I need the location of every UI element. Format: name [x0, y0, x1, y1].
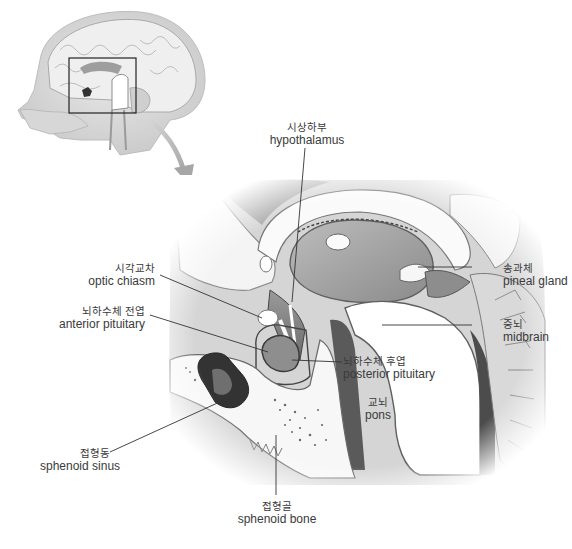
- inset-head: [18, 11, 205, 155]
- label-anterior-pituitary: 뇌하수체 전엽 anterior pituitary: [40, 305, 145, 331]
- label-pons-en: pons: [353, 409, 403, 422]
- label-sphenoid-bone-en: sphenoid bone: [236, 513, 318, 526]
- label-hypothalamus-en: hypothalamus: [264, 134, 350, 147]
- label-sphenoid-sinus: 접형동 sphenoid sinus: [40, 447, 110, 473]
- label-pons: 교뇌 pons: [353, 396, 403, 422]
- anatomy-figure: 시상하부 hypothalamus 시각교차 optic chiasm 뇌하수체…: [0, 0, 572, 549]
- label-midbrain: 중뇌 midbrain: [503, 318, 549, 344]
- label-posterior-pituitary: 뇌하수체 후엽 posterior pituitary: [343, 355, 435, 381]
- label-posterior-pituitary-en: posterior pituitary: [343, 368, 435, 381]
- label-pineal-gland-en: pineal gland: [503, 275, 568, 288]
- label-hypothalamus: 시상하부 hypothalamus: [264, 121, 350, 147]
- label-optic-chiasm: 시각교차 optic chiasm: [60, 262, 155, 288]
- label-midbrain-en: midbrain: [503, 331, 549, 344]
- label-sphenoid-sinus-en: sphenoid sinus: [40, 460, 110, 473]
- label-sphenoid-bone: 접형골 sphenoid bone: [236, 500, 318, 526]
- label-optic-chiasm-en: optic chiasm: [60, 275, 155, 288]
- label-anterior-pituitary-en: anterior pituitary: [40, 318, 145, 331]
- main-illustration: [160, 175, 560, 495]
- label-pineal-gland: 송과체 pineal gland: [503, 262, 568, 288]
